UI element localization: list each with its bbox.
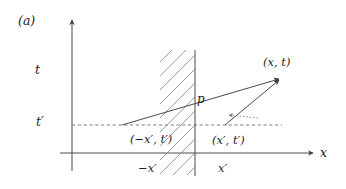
x-axis-label: x [320,147,327,160]
t-prime-axis-label: t′ [36,116,44,129]
t-axis-label: t [35,64,40,77]
barrier-hatching [150,22,200,189]
x-prime-tick-label: x′ [218,163,227,175]
barrier-wall-group [150,22,200,189]
image-point-label: (x′, t′) [212,135,245,147]
minus-x-prime-tick-label: −x′ [138,163,157,175]
source-point-label: (−x′, t′) [130,134,172,146]
barrier-point-p-label: p [197,93,205,105]
panel-label: (a) [18,15,35,28]
spacetime-diagram-canvas [0,0,346,189]
figure-root: (a) t x t′ p (x, t) (−x′, t′) (x′, t′) −… [0,0,346,189]
axis-group [60,20,313,171]
observer-point-label: (x, t) [263,57,290,69]
